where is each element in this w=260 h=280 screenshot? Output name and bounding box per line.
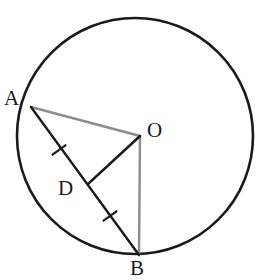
geometry-canvas (0, 0, 260, 280)
segment-ab-chord (31, 107, 139, 255)
segment-ao (31, 107, 140, 136)
point-label-b: B (130, 258, 144, 279)
segment-ob (139, 136, 140, 255)
point-label-a: A (4, 88, 19, 109)
point-label-o: O (147, 120, 162, 141)
tick-mark-db (104, 211, 117, 220)
segment-od-perpendicular (88, 136, 140, 184)
point-label-d: D (58, 178, 73, 199)
geometry-figure: A O B D (0, 0, 260, 280)
